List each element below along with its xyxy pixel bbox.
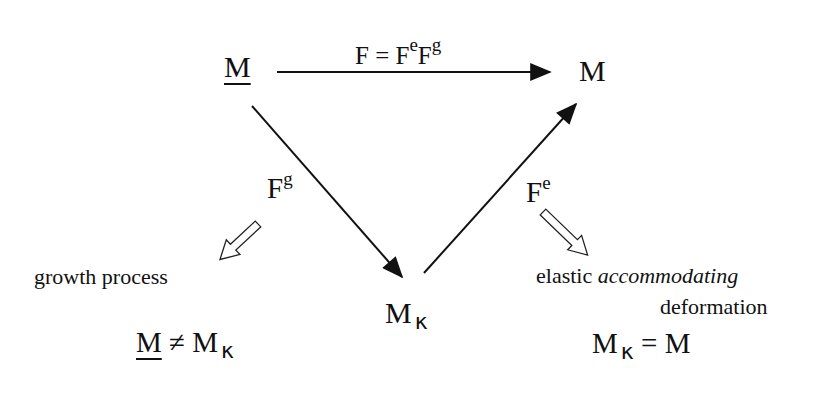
intermediate-symbol: M — [385, 296, 412, 329]
hollow-arrow-elastic-icon — [536, 205, 594, 262]
hollow-arrow-growth-icon — [213, 217, 265, 267]
rel-left-a: M — [136, 326, 162, 358]
label-growth-tensor: Fg — [267, 174, 293, 203]
total-eq: = — [369, 42, 396, 69]
total-s2: g — [432, 34, 442, 55]
relation-equality: Mκ = M — [592, 329, 690, 358]
rel-right-op: = — [634, 327, 665, 359]
node-current-configuration: M — [579, 56, 606, 86]
rel-right-a-sub: κ — [621, 339, 634, 364]
label-growth-process: growth process — [34, 266, 168, 288]
label-elastic-tensor: Fe — [526, 178, 551, 207]
intermediate-subscript: κ — [415, 309, 428, 334]
total-s1: e — [409, 34, 417, 55]
rel-left-b-sub: κ — [221, 338, 234, 363]
elastic-base: F — [526, 176, 542, 208]
elastic-sup: e — [542, 172, 550, 193]
node-intermediate-configuration: Mκ — [385, 298, 428, 328]
rel-right-b: M — [665, 327, 691, 359]
elastic-plain: elastic — [536, 263, 598, 288]
rel-left-op: ≠ — [162, 326, 192, 358]
growth-base: F — [267, 172, 283, 204]
total-f1: F — [396, 42, 410, 69]
rel-left-b: M — [192, 326, 218, 358]
current-symbol: M — [579, 54, 606, 87]
reference-symbol: M — [224, 50, 251, 83]
growth-sup: g — [283, 168, 293, 189]
label-elastic-line1: elastic accommodating — [536, 265, 738, 287]
total-lhs: F — [355, 42, 369, 69]
elastic-italic: accommodating — [598, 263, 739, 288]
node-reference-configuration: M — [224, 52, 251, 82]
label-elastic-line2: deformation — [660, 296, 768, 318]
label-total-deformation: F = FeFg — [355, 43, 441, 68]
rel-right-a: M — [592, 327, 618, 359]
arrow-elastic-deformation — [424, 104, 576, 273]
relation-inequality: M ≠ Mκ — [136, 328, 234, 357]
total-f2: F — [418, 42, 432, 69]
